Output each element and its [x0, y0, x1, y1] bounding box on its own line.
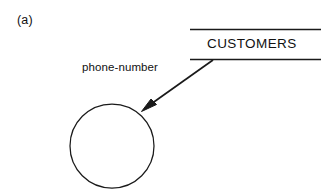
diagram-canvas	[0, 0, 327, 194]
figure-part-label: (a)	[17, 14, 33, 27]
process-circle	[70, 104, 154, 188]
dfd-figure: (a) CUSTOMERS phone-number	[0, 0, 327, 194]
data-flow-label: phone-number	[82, 62, 158, 74]
data-store-label: CUSTOMERS	[207, 37, 297, 51]
